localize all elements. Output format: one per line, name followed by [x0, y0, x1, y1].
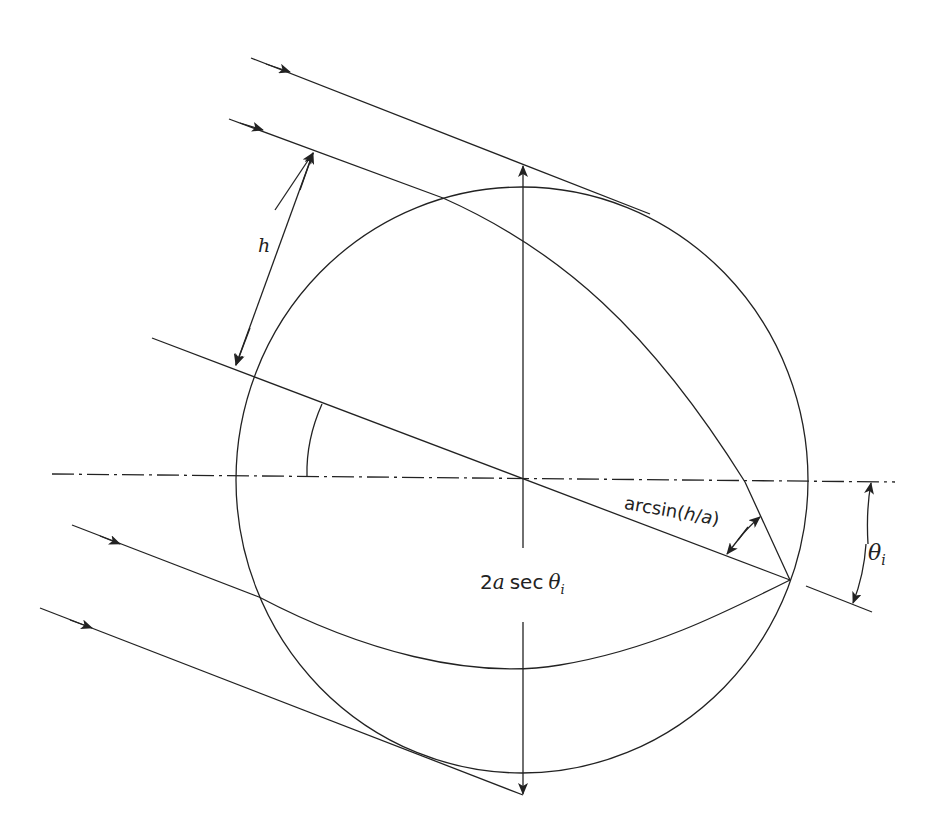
diameter-sub: i [560, 582, 564, 597]
optical-axis [52, 474, 895, 482]
refracted-ray-upper [443, 198, 790, 580]
diameter-extension [806, 586, 872, 612]
diameter-two: 2 [480, 570, 493, 594]
ray-arrow-icon [266, 64, 290, 72]
incident-ray-4 [40, 608, 523, 795]
h-label: h [258, 236, 270, 255]
ray-arrow-icon [240, 123, 263, 130]
diameter-theta: θ [548, 570, 560, 594]
diameter-label: 2a sec θi [480, 572, 565, 596]
angle-arc-center [307, 404, 322, 476]
ray-arrow-icon [100, 536, 120, 544]
theta-i-sub: i [881, 552, 885, 568]
diameter-line [152, 338, 790, 580]
h-dimension-arrow [275, 153, 313, 210]
theta-i-theta: θ [868, 540, 881, 565]
incident-ray-2 [229, 119, 443, 198]
sphere-ray-diagram [0, 0, 936, 828]
incident-ray-1 [251, 58, 650, 214]
ray-arrow-icon [70, 620, 92, 628]
theta-i-label: θi [868, 542, 886, 567]
incident-ray-3 [72, 525, 259, 597]
diameter-sec: sec [510, 570, 544, 594]
diameter-a: a [493, 570, 505, 594]
